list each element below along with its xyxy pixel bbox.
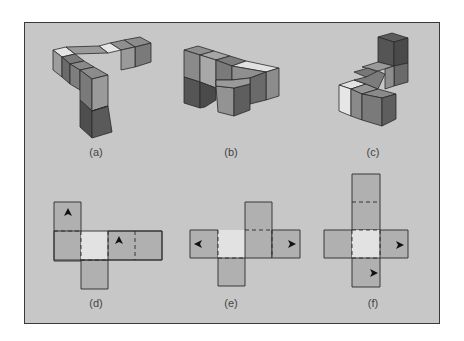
panel-label-c: (c) [353,146,393,158]
cube-net-e [190,202,300,286]
cube-assembly-a [53,37,151,138]
figure-drawing [0,0,464,341]
panel-label-d: (d) [76,297,116,309]
cube-net-d [54,202,162,289]
panel-label-b: (b) [211,146,251,158]
panel-label-a: (a) [76,146,116,158]
panel-label-e: (e) [211,297,251,309]
cube-net-f [324,174,408,287]
panel-label-f: (f) [353,297,393,309]
cube-assembly-c [339,33,408,126]
cube-assembly-b [184,46,279,116]
